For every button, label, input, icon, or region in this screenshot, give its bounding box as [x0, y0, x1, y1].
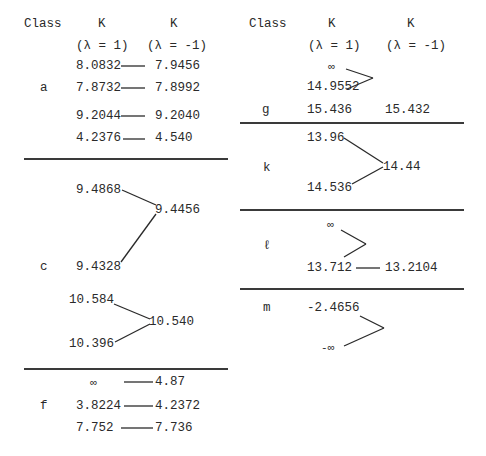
- header-lambda-neg-right: (λ = -1): [386, 39, 446, 53]
- c-g1-k1-top: 9.4868: [76, 183, 121, 197]
- class-label-l: ℓ: [263, 239, 271, 253]
- c-g2-k1-top: 10.584: [69, 293, 114, 307]
- g-k1-a: 14.9552: [307, 80, 360, 94]
- c-g2-k1-bottom: 10.396: [69, 337, 114, 351]
- class-label-f: f: [40, 399, 48, 413]
- f-row2-k1: 3.8224: [76, 399, 121, 413]
- c-g1-k1-bottom: 9.4328: [76, 260, 121, 274]
- f-row2-k2: 4.2372: [155, 399, 200, 413]
- l-k1: 13.712: [307, 261, 352, 275]
- g-k1-b: 15.436: [307, 103, 352, 117]
- f-row3-k2: 7.736: [155, 421, 193, 435]
- k-k1-top: 13.96: [307, 131, 345, 145]
- header-k1-left: K: [98, 17, 106, 31]
- divider-right-3: [240, 288, 464, 290]
- f-row1-k2: 4.87: [155, 375, 185, 389]
- c-g1-k2: 9.4456: [155, 203, 200, 217]
- header-lambda-pos-right: (λ = 1): [308, 39, 361, 53]
- c-g2-k2: 10.540: [149, 315, 194, 329]
- k-k1-bottom: 14.536: [307, 181, 352, 195]
- divider-right-2: [240, 209, 464, 211]
- m-k1-top: -2.4656: [307, 301, 360, 315]
- header-class-right: Class: [249, 17, 287, 31]
- class-label-k: k: [263, 161, 271, 175]
- f-row1-k1: ∞: [90, 376, 97, 390]
- a-row3-k2: 9.2040: [155, 109, 200, 123]
- a-row4-k1: 4.2376: [76, 131, 121, 145]
- a-row1-k1: 8.0832: [76, 59, 121, 73]
- class-label-m: m: [263, 301, 271, 315]
- divider-left-1: [24, 158, 228, 160]
- divider-right-1: [240, 122, 464, 124]
- a-row2-k2: 7.8992: [155, 81, 200, 95]
- connector-lines: [0, 0, 486, 456]
- header-k2-left: K: [170, 17, 178, 31]
- header-class-left: Class: [24, 17, 62, 31]
- class-label-a: a: [40, 81, 48, 95]
- a-row4-k2: 4.540: [155, 131, 193, 145]
- g-k2-b: 15.432: [385, 103, 430, 117]
- f-row3-k1: 7.752: [76, 421, 114, 435]
- header-lambda-pos-left: (λ = 1): [76, 39, 129, 53]
- header-lambda-neg-left: (λ = -1): [147, 39, 207, 53]
- k-k2: 14.44: [383, 160, 421, 174]
- a-row2-k1: 7.8732: [76, 81, 121, 95]
- class-label-g: g: [262, 103, 270, 117]
- class-label-c: c: [40, 260, 48, 274]
- divider-left-2: [24, 368, 228, 370]
- m-k1-bottom: -∞: [321, 341, 334, 355]
- a-row1-k2: 7.9456: [155, 59, 200, 73]
- header-k2-right: K: [407, 17, 415, 31]
- a-row3-k1: 9.2044: [76, 109, 121, 123]
- l-inf: ∞: [327, 218, 334, 232]
- g-inf: ∞: [328, 60, 335, 74]
- l-k2: 13.2104: [385, 261, 438, 275]
- header-k1-right: K: [328, 17, 336, 31]
